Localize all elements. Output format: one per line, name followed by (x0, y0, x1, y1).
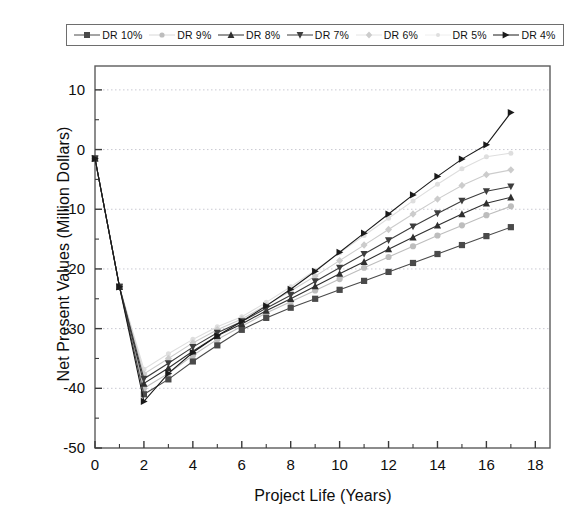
data-point-marker (385, 226, 392, 233)
data-point-marker (483, 171, 490, 178)
data-point-marker (337, 287, 343, 293)
data-point-marker (434, 251, 440, 257)
data-point-marker (409, 234, 416, 241)
data-point-marker (484, 154, 489, 159)
data-point-marker (214, 342, 220, 348)
data-point-marker (385, 237, 392, 244)
x-tick-label: 12 (380, 456, 397, 473)
y-tick-label: -50 (63, 439, 85, 456)
data-point-marker (508, 109, 515, 116)
data-point-marker (288, 305, 294, 311)
series-dr-8 (91, 155, 514, 387)
y-tick-label: -20 (63, 260, 85, 277)
data-point-marker (458, 182, 465, 189)
data-point-marker (360, 258, 367, 265)
data-point-marker (458, 198, 465, 205)
data-point-marker (361, 241, 368, 248)
data-point-marker (459, 156, 466, 163)
data-point-marker (360, 251, 367, 258)
x-tick-label: 0 (91, 456, 99, 473)
x-tick-label: 18 (527, 456, 544, 473)
x-tick-label: 8 (287, 456, 295, 473)
data-point-marker (434, 232, 440, 238)
data-point-marker (165, 376, 171, 382)
x-tick-label: 6 (238, 456, 246, 473)
series-dr-6 (92, 155, 515, 378)
data-point-marker (434, 210, 441, 217)
chart-figure: DR 10% DR 9% DR 8% DR 7% DR 6% DR 5% DR … (0, 0, 584, 532)
data-point-marker (410, 260, 416, 266)
y-tick-label: 0 (77, 141, 85, 158)
y-tick-label: -40 (63, 379, 85, 396)
data-point-marker (459, 166, 464, 171)
plot-area: 100-10-20-30-40-50024681012141618 (0, 0, 584, 532)
data-point-marker (361, 265, 367, 271)
data-point-marker (459, 222, 465, 228)
series-dr-9 (92, 155, 514, 391)
data-point-marker (435, 182, 440, 187)
data-point-marker (508, 224, 514, 230)
data-point-marker (385, 246, 392, 253)
data-point-marker (411, 198, 416, 203)
data-point-marker (312, 278, 319, 285)
data-point-marker (507, 166, 514, 173)
data-point-marker (434, 222, 441, 229)
x-tick-label: 2 (140, 456, 148, 473)
data-point-marker (483, 141, 490, 148)
y-tick-label: -10 (63, 200, 85, 217)
data-point-marker (385, 254, 391, 260)
data-point-marker (434, 195, 441, 202)
data-point-marker (337, 276, 343, 282)
x-tick-label: 10 (331, 456, 348, 473)
data-point-marker (483, 212, 489, 218)
data-point-marker (508, 203, 514, 209)
series-dr-4 (92, 109, 515, 405)
data-point-marker (458, 210, 465, 217)
data-point-marker (508, 151, 513, 156)
data-point-marker (312, 296, 318, 302)
data-point-marker (410, 243, 416, 249)
data-point-marker (483, 233, 489, 239)
data-point-marker (409, 223, 416, 230)
data-point-marker (507, 194, 514, 201)
data-point-marker (385, 269, 391, 275)
data-point-marker (483, 188, 490, 195)
x-tick-label: 14 (429, 456, 446, 473)
data-point-marker (263, 315, 269, 321)
series-dr-5 (93, 151, 514, 372)
data-point-marker (459, 242, 465, 248)
data-point-marker (336, 257, 343, 264)
x-tick-label: 16 (478, 456, 495, 473)
data-point-marker (336, 265, 343, 272)
data-point-marker (239, 327, 245, 333)
y-tick-label: 10 (68, 81, 85, 98)
y-tick-label: -30 (63, 320, 85, 337)
data-point-marker (410, 210, 417, 217)
data-point-marker (361, 278, 367, 284)
x-tick-label: 4 (189, 456, 197, 473)
data-point-marker (190, 358, 196, 364)
